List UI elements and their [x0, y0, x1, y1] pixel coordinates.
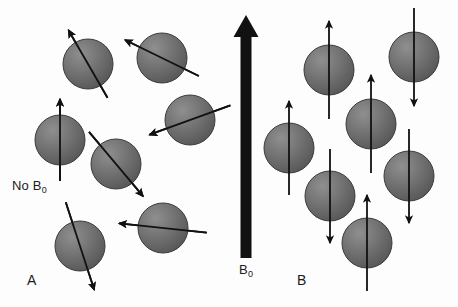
B0-field-arrow-shape: [234, 15, 259, 258]
no-field-label: No B0: [12, 178, 47, 193]
panel-b-letter: B: [297, 272, 307, 288]
panel-a-letter: A: [27, 272, 37, 288]
field-label-subscript: 0: [248, 269, 253, 279]
panel-b-content: [264, 8, 439, 291]
no-field-label-text: No B: [12, 178, 42, 193]
field-label-text: B: [239, 262, 248, 277]
spin-alignment-figure: No B0 B0 A B: [0, 0, 458, 307]
no-field-label-subscript: 0: [42, 185, 47, 195]
field-label: B0: [239, 262, 253, 277]
B0-field-arrow: [234, 15, 259, 258]
panel-a-content: [35, 30, 230, 290]
figure-canvas: [0, 0, 458, 307]
